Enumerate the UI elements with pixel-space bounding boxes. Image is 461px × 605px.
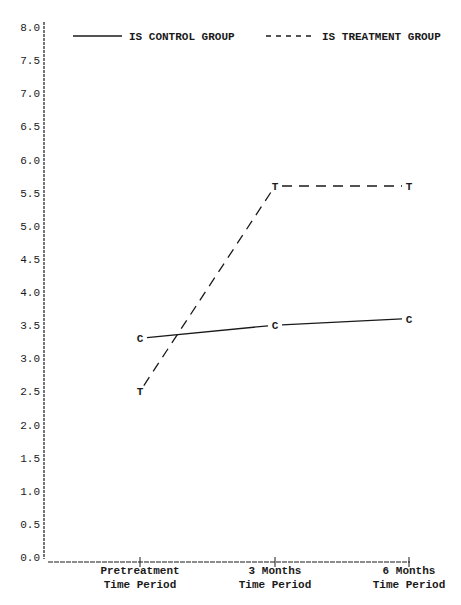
x-category-label-line1: Pretreatment — [100, 565, 179, 577]
data-point-marker: C — [406, 314, 413, 326]
y-tick-label: 7.0 — [20, 88, 40, 100]
y-tick-label: 5.0 — [20, 221, 40, 233]
x-category-label-line1: 3 Months — [249, 565, 302, 577]
series-line-segment — [282, 319, 402, 325]
y-tick-label: 7.5 — [20, 55, 40, 67]
y-tick-label: 1.0 — [20, 486, 40, 498]
legend-control-label: IS CONTROL GROUP — [129, 31, 235, 43]
line-chart: 0.00.51.01.52.02.53.03.54.04.55.05.56.06… — [0, 0, 461, 605]
data-point-marker: T — [272, 181, 279, 193]
x-category-labels: PretreatmentTime Period3 MonthsTime Peri… — [100, 565, 445, 591]
y-tick-label: 0.5 — [20, 519, 40, 531]
y-tick-label: 3.0 — [20, 353, 40, 365]
series-control: CCC — [137, 314, 413, 346]
legend: IS CONTROL GROUP IS TREATMENT GROUP — [73, 31, 441, 43]
y-tick-label: 5.5 — [20, 188, 40, 200]
x-category-label-line2: Time Period — [104, 579, 177, 591]
series-layer: CCCTTT — [137, 181, 413, 398]
y-tick-label: 2.5 — [20, 386, 40, 398]
series-line-segment — [144, 192, 271, 386]
y-tick-labels: 0.00.51.01.52.02.53.03.54.04.55.05.56.06… — [20, 22, 40, 564]
data-point-marker: C — [137, 333, 144, 345]
y-tick-label: 4.5 — [20, 254, 40, 266]
y-tick-label: 6.0 — [20, 155, 40, 167]
y-tick-label: 0.0 — [20, 552, 40, 564]
data-point-marker: T — [137, 386, 144, 398]
y-tick-label: 1.5 — [20, 453, 40, 465]
data-point-marker: C — [272, 320, 279, 332]
series-treatment: TTT — [137, 181, 413, 398]
y-tick-label: 6.5 — [20, 121, 40, 133]
y-tick-label: 2.0 — [20, 420, 40, 432]
data-point-marker: T — [406, 181, 413, 193]
x-category-label-line2: Time Period — [239, 579, 312, 591]
y-tick-label: 3.5 — [20, 320, 40, 332]
x-category-label-line2: Time Period — [373, 579, 446, 591]
x-category-label-line1: 6 Months — [383, 565, 436, 577]
y-tick-label: 8.0 — [20, 22, 40, 34]
series-line-segment — [147, 326, 268, 338]
legend-treatment-label: IS TREATMENT GROUP — [322, 31, 441, 43]
y-tick-label: 4.0 — [20, 287, 40, 299]
